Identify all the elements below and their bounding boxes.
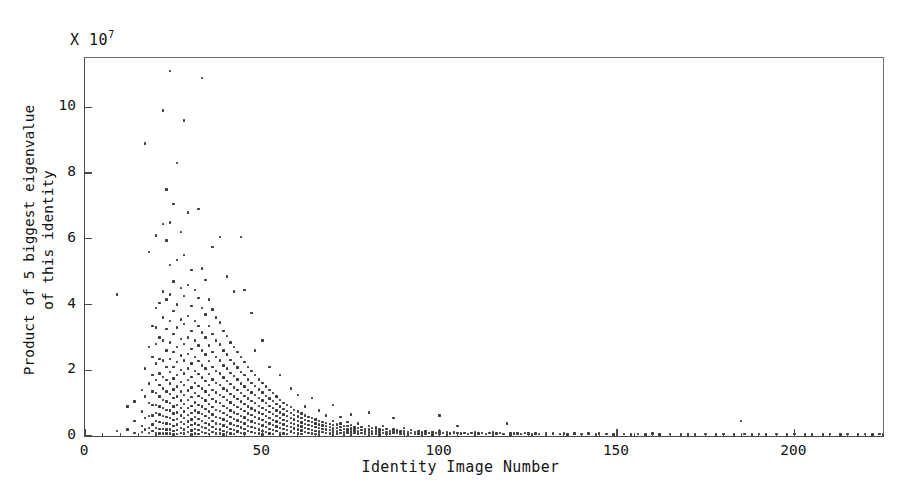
data-point <box>272 429 274 431</box>
data-point <box>229 409 231 411</box>
data-point <box>516 432 518 434</box>
data-point <box>243 416 245 418</box>
data-point <box>339 432 341 434</box>
data-point <box>226 414 228 416</box>
data-point <box>211 308 213 310</box>
data-point <box>290 417 292 419</box>
data-point <box>222 424 224 426</box>
data-point <box>141 425 143 427</box>
data-point <box>219 402 221 404</box>
data-point <box>336 427 338 429</box>
data-point <box>180 407 182 409</box>
data-point <box>233 386 235 388</box>
data-point <box>176 418 178 420</box>
x-axis-minor-tick <box>333 433 334 437</box>
data-point <box>339 416 341 418</box>
data-point <box>297 410 299 412</box>
data-point <box>236 413 238 415</box>
data-point <box>250 312 252 314</box>
data-point <box>116 430 118 432</box>
data-point <box>183 343 185 345</box>
x-axis-major-tick <box>439 429 440 437</box>
data-point <box>261 339 263 341</box>
data-point <box>275 415 277 417</box>
data-point <box>194 339 196 341</box>
data-point <box>382 425 384 427</box>
data-point <box>155 234 157 236</box>
data-point <box>343 425 345 427</box>
data-point <box>162 223 164 225</box>
data-point <box>197 395 199 397</box>
data-point <box>254 427 256 429</box>
data-point <box>194 289 196 291</box>
data-point <box>460 432 462 434</box>
data-point <box>155 392 157 394</box>
data-point <box>382 429 384 431</box>
data-point <box>165 366 167 368</box>
data-point <box>204 279 206 281</box>
data-point <box>158 428 160 430</box>
data-point <box>208 360 210 362</box>
x-axis-minor-tick <box>670 433 671 437</box>
data-point <box>180 369 182 371</box>
data-point <box>360 432 362 434</box>
data-point <box>247 366 249 368</box>
data-point <box>141 431 143 433</box>
data-point <box>176 429 178 431</box>
data-point <box>155 343 157 345</box>
data-point <box>258 378 260 380</box>
data-point <box>279 405 281 407</box>
data-point <box>194 422 196 424</box>
data-point <box>187 407 189 409</box>
data-point <box>279 422 281 424</box>
data-point <box>162 407 164 409</box>
data-point <box>219 417 221 419</box>
x-axis-minor-tick <box>138 433 139 437</box>
data-point <box>148 415 150 417</box>
data-point <box>222 349 224 351</box>
data-point <box>279 399 281 401</box>
data-point <box>172 425 174 427</box>
data-point <box>311 425 313 427</box>
data-point <box>258 405 260 407</box>
data-point <box>385 428 387 430</box>
data-point <box>162 428 164 430</box>
data-point <box>155 420 157 422</box>
data-point <box>839 433 841 435</box>
data-point <box>396 432 398 434</box>
data-point <box>240 415 242 417</box>
data-point <box>176 303 178 305</box>
data-point <box>201 387 203 389</box>
data-point <box>204 390 206 392</box>
data-point <box>158 395 160 397</box>
data-point <box>158 432 160 434</box>
x-axis-minor-tick <box>244 433 245 437</box>
data-point <box>339 426 341 428</box>
data-point <box>197 344 199 346</box>
data-point <box>151 430 153 432</box>
data-point <box>286 410 288 412</box>
data-point <box>172 203 174 205</box>
data-point <box>169 264 171 266</box>
data-point <box>573 432 575 434</box>
data-point <box>194 382 196 384</box>
data-point <box>183 417 185 419</box>
data-point <box>219 236 221 238</box>
data-point <box>165 298 167 300</box>
x-axis-minor-tick <box>705 433 706 437</box>
data-point <box>222 330 224 332</box>
data-point <box>243 428 245 430</box>
data-point <box>438 414 440 416</box>
data-point <box>275 395 277 397</box>
data-point <box>211 426 213 428</box>
data-point <box>211 389 213 391</box>
x-axis-tick-label: 100 <box>409 442 469 458</box>
data-point <box>229 401 231 403</box>
data-point <box>165 390 167 392</box>
data-point <box>258 397 260 399</box>
data-point <box>311 432 313 434</box>
data-point <box>215 382 217 384</box>
data-point <box>268 397 270 399</box>
data-point <box>162 432 164 434</box>
data-point <box>236 389 238 391</box>
